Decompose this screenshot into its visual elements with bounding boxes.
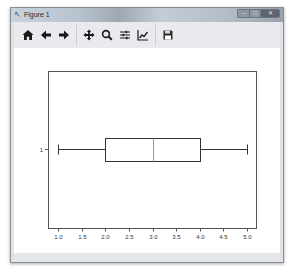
x-tick-label: 1.5 [78,234,87,240]
close-button[interactable]: ✕ [260,9,280,18]
line-chart-icon [137,29,149,41]
window-controls: – □ ✕ [237,9,280,19]
toolbar-separator [76,25,77,45]
sliders-icon [119,29,131,41]
x-tick-label: 3.0 [149,234,158,240]
subplots-button[interactable] [116,26,134,44]
x-tick-label: 2.5 [125,234,134,240]
navigation-toolbar [14,22,280,49]
arrow-left-icon [40,29,52,41]
zoom-button[interactable] [98,26,116,44]
move-icon [83,29,95,41]
floppy-disk-icon [162,29,174,41]
x-tick-label: 1.0 [54,234,63,240]
home-icon [22,29,34,41]
app-icon: ↖ [14,10,22,19]
toolbar-separator [155,25,156,45]
x-tick-label: 4.5 [219,234,228,240]
edit-axis-button[interactable] [134,26,152,44]
magnifier-icon [101,29,113,41]
x-tick-label: 5.0 [243,234,252,240]
minimize-button[interactable]: – [237,9,249,18]
home-button[interactable] [19,26,37,44]
boxplot-chart: 1.01.52.02.53.03.54.04.55.01 [14,48,280,253]
back-button[interactable] [37,26,55,44]
x-tick-label: 3.5 [172,234,181,240]
y-tick-label: 1 [40,147,44,153]
forward-button[interactable] [55,26,73,44]
x-tick-label: 4.0 [196,234,205,240]
figure-canvas[interactable]: 1.01.52.02.53.03.54.04.55.01 [14,48,280,253]
pan-button[interactable] [80,26,98,44]
x-tick-label: 2.0 [101,234,110,240]
figure-window: ↖ Figure 1 – □ ✕ [10,7,284,263]
arrow-right-icon [58,29,70,41]
title-bar[interactable]: ↖ Figure 1 – □ ✕ [11,8,283,22]
save-button[interactable] [159,26,177,44]
status-bar [14,253,280,261]
maximize-button[interactable]: □ [249,9,260,18]
window-title: Figure 1 [24,9,50,21]
